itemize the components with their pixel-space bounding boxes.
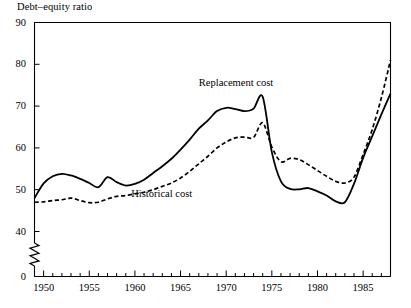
chart-figure: Debt–equity ratio 0405060708090195019551… (0, 0, 411, 308)
y-tick-label: 70 (4, 100, 26, 111)
y-tick-label: 60 (4, 142, 26, 153)
y-tick-label: 50 (4, 184, 26, 195)
chart-plot-area (0, 0, 411, 308)
y-tick-label: 40 (4, 226, 26, 237)
x-tick-label: 1950 (33, 282, 54, 293)
x-tick-label: 1975 (261, 282, 282, 293)
x-tick-label: 1985 (353, 282, 374, 293)
x-tick-label: 1965 (170, 282, 191, 293)
x-tick-label: 1960 (124, 282, 145, 293)
x-tick-label: 1955 (79, 282, 100, 293)
plot-frame (35, 23, 391, 277)
x-tick-label: 1980 (307, 282, 328, 293)
x-tick-label: 1970 (216, 282, 237, 293)
y-tick-label: 80 (4, 58, 26, 69)
y-tick-label: 90 (4, 17, 26, 28)
y-tick-label: 0 (4, 271, 26, 282)
series-annotation-label: Replacement cost (199, 77, 273, 88)
chart-axis-title: Debt–equity ratio (17, 1, 92, 13)
y-axis-break-icon (30, 243, 39, 266)
series-annotation-label: Historical cost (131, 188, 192, 199)
series-line-1 (35, 94, 391, 204)
